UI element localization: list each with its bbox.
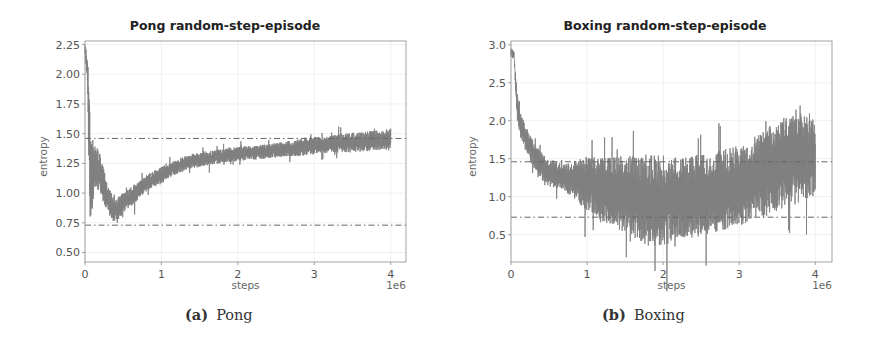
boxing-chart-panel: 012340.51.01.52.02.53.0Boxing random-ste… bbox=[0, 0, 880, 349]
y-tick-label: 1.0 bbox=[489, 191, 507, 204]
y-tick-label: 0.5 bbox=[489, 229, 507, 242]
y-tick-label: 1.5 bbox=[489, 153, 507, 166]
boxing-entropy-chart: 012340.51.01.52.02.53.0Boxing random-ste… bbox=[0, 0, 880, 300]
boxing-caption: (b)Boxing bbox=[602, 306, 685, 323]
caption-tag: (b) bbox=[602, 306, 626, 323]
x-offset-label: 1e6 bbox=[812, 279, 832, 291]
x-tick-label: 3 bbox=[736, 268, 743, 281]
caption-text: Boxing bbox=[634, 307, 685, 323]
y-tick-label: 2.5 bbox=[489, 77, 507, 90]
x-tick-label: 1 bbox=[584, 268, 591, 281]
x-tick-label: 0 bbox=[508, 268, 515, 281]
chart-title: Boxing random-step-episode bbox=[563, 18, 766, 33]
y-axis-label: entropy bbox=[466, 136, 478, 177]
y-tick-label: 2.0 bbox=[489, 115, 507, 128]
x-axis-label: steps bbox=[657, 279, 685, 291]
y-tick-label: 3.0 bbox=[489, 39, 507, 52]
